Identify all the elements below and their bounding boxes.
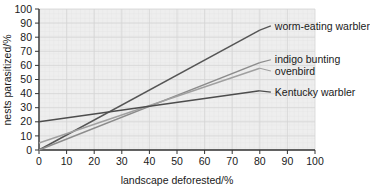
y-tick-label: 50 [20,73,32,85]
series-label-indigo-bunting: indigo bunting [275,53,341,65]
x-axis-title: landscape deforested/% [121,174,234,186]
y-tick-label: 70 [20,45,32,57]
x-tick-label: 20 [88,155,100,167]
x-tick-label: 50 [171,155,183,167]
y-tick-label: 20 [20,115,32,127]
series-label-ovenbird: ovenbird [275,65,315,77]
x-tick-label: 100 [306,155,324,167]
x-tick-label: 60 [199,155,211,167]
x-tick-label: 30 [116,155,128,167]
y-tick-label: 80 [20,31,32,43]
y-tick-label: 30 [20,101,32,113]
y-tick-label: 100 [14,3,32,15]
chart-container: 0102030405060708090100 01020304050607080… [0,0,370,191]
line-chart: 0102030405060708090100 01020304050607080… [0,0,370,191]
x-tick-label: 40 [144,155,156,167]
y-tick-label: 90 [20,17,32,29]
x-tick-label: 90 [282,155,294,167]
y-tick-label: 0 [26,144,32,156]
series-label-worm-eating-warbler: worm-eating warbler [274,20,370,32]
y-tick-label: 40 [20,87,32,99]
x-tick-label: 80 [254,155,266,167]
series-label-kentucky-warbler: Kentucky warbler [275,86,356,98]
x-tick-label: 70 [226,155,238,167]
x-tick-label: 0 [36,155,42,167]
y-tick-label: 60 [20,59,32,71]
x-tick-label: 10 [61,155,73,167]
y-tick-label: 10 [20,130,32,142]
y-axis-title: nests parasitized/% [1,34,13,125]
